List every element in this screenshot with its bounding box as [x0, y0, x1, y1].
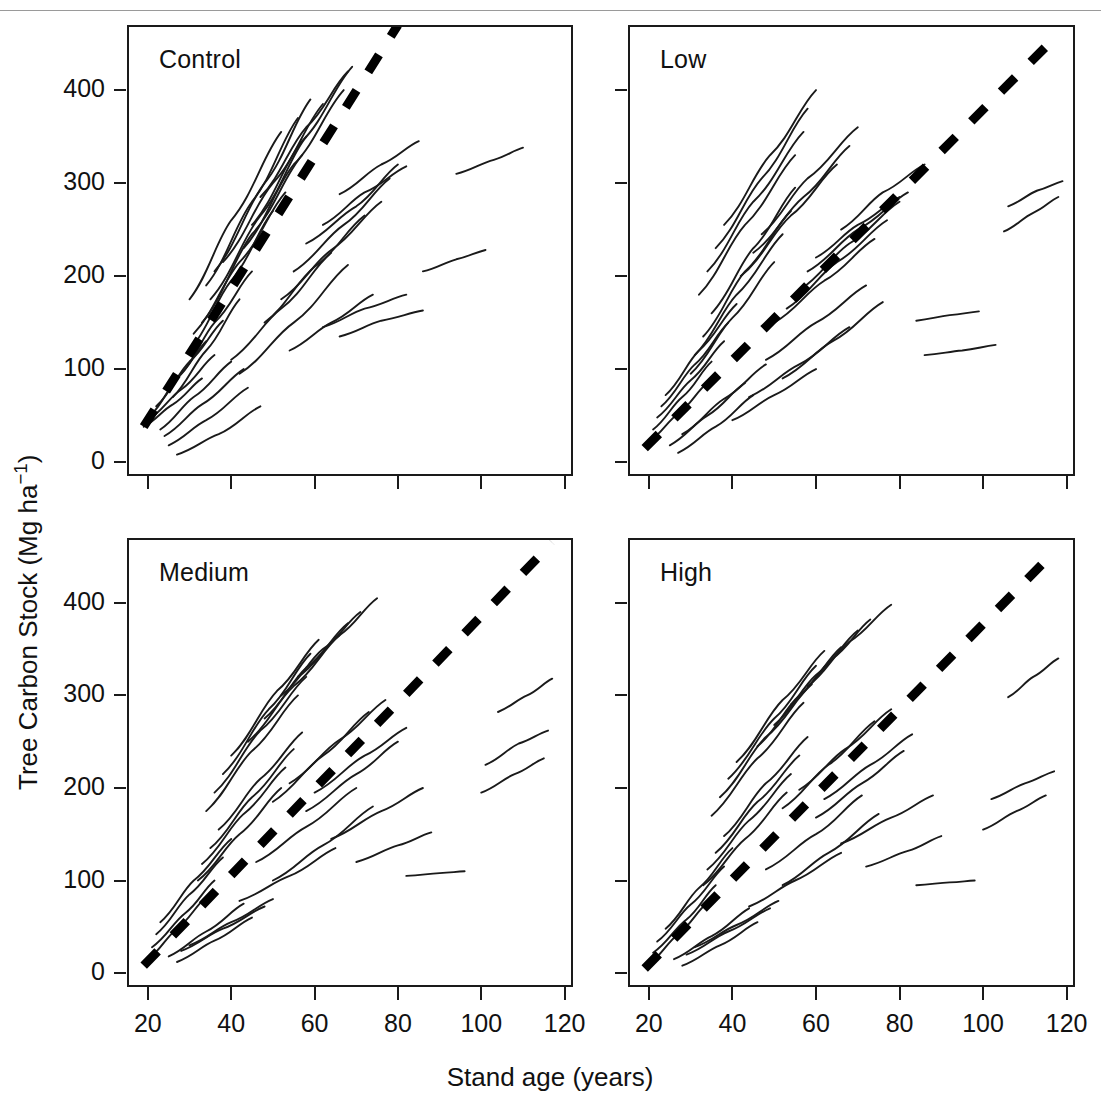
y-tick-label: 300	[7, 679, 105, 708]
x-tick-label: 120	[520, 1009, 610, 1038]
x-tick-mark	[147, 476, 149, 489]
y-tick-label: 0	[7, 446, 105, 475]
x-tick-mark	[230, 987, 232, 1000]
y-tick-label: 400	[7, 587, 105, 616]
y-tick-mark	[114, 880, 126, 882]
y-tick-mark	[615, 461, 627, 463]
y-tick-mark	[615, 89, 627, 91]
y-tick-label: 100	[7, 865, 105, 894]
y-tick-mark	[114, 368, 126, 370]
y-tick-mark	[615, 602, 627, 604]
panel-medium	[127, 538, 573, 987]
panel-low	[628, 25, 1075, 476]
panel-title-low: Low	[660, 45, 706, 74]
y-tick-label: 400	[7, 74, 105, 103]
x-tick-mark	[564, 987, 566, 1000]
y-tick-mark	[114, 602, 126, 604]
x-tick-mark	[731, 987, 733, 1000]
panel-control	[127, 25, 573, 476]
x-tick-mark	[230, 476, 232, 489]
y-tick-mark	[114, 182, 126, 184]
x-tick-mark	[397, 987, 399, 1000]
x-tick-mark	[731, 476, 733, 489]
x-tick-label: 20	[103, 1009, 193, 1038]
x-tick-mark	[564, 476, 566, 489]
y-tick-mark	[615, 787, 627, 789]
x-tick-mark	[147, 987, 149, 1000]
x-tick-label: 100	[938, 1009, 1028, 1038]
y-tick-mark	[615, 694, 627, 696]
x-axis-label: Stand age (years)	[380, 1062, 720, 1093]
x-tick-mark	[648, 987, 650, 1000]
y-tick-mark	[114, 275, 126, 277]
y-tick-mark	[615, 972, 627, 974]
x-tick-label: 60	[270, 1009, 360, 1038]
scan-artifact-rule	[0, 10, 1101, 11]
y-tick-mark	[615, 880, 627, 882]
x-tick-mark	[815, 476, 817, 489]
y-tick-mark	[615, 275, 627, 277]
x-tick-mark	[480, 987, 482, 1000]
y-tick-label: 200	[7, 260, 105, 289]
x-tick-label: 40	[186, 1009, 276, 1038]
x-tick-label: 100	[436, 1009, 526, 1038]
x-tick-label: 20	[604, 1009, 694, 1038]
y-tick-mark	[114, 89, 126, 91]
x-tick-mark	[1066, 476, 1068, 489]
x-tick-mark	[982, 476, 984, 489]
figure-root: Tree Carbon Stock (Mg ha−1) Stand age (y…	[0, 0, 1101, 1109]
y-tick-label: 100	[7, 353, 105, 382]
y-tick-mark	[114, 972, 126, 974]
x-tick-mark	[982, 987, 984, 1000]
x-tick-mark	[480, 476, 482, 489]
panel-title-high: High	[660, 558, 712, 587]
y-tick-label: 200	[7, 772, 105, 801]
y-tick-label: 0	[7, 957, 105, 986]
y-tick-mark	[615, 182, 627, 184]
x-tick-mark	[314, 987, 316, 1000]
x-tick-mark	[815, 987, 817, 1000]
x-tick-mark	[648, 476, 650, 489]
x-tick-mark	[1066, 987, 1068, 1000]
y-tick-mark	[114, 461, 126, 463]
y-tick-mark	[615, 368, 627, 370]
x-tick-mark	[314, 476, 316, 489]
x-tick-label: 80	[353, 1009, 443, 1038]
x-tick-mark	[899, 987, 901, 1000]
x-tick-label: 80	[855, 1009, 945, 1038]
x-tick-label: 40	[687, 1009, 777, 1038]
panel-title-control: Control	[159, 45, 241, 74]
x-tick-label: 120	[1022, 1009, 1101, 1038]
y-tick-mark	[114, 787, 126, 789]
x-tick-mark	[397, 476, 399, 489]
panel-high	[628, 538, 1075, 987]
y-tick-mark	[114, 694, 126, 696]
y-tick-label: 300	[7, 167, 105, 196]
panel-title-medium: Medium	[159, 558, 249, 587]
x-tick-mark	[899, 476, 901, 489]
x-tick-label: 60	[771, 1009, 861, 1038]
